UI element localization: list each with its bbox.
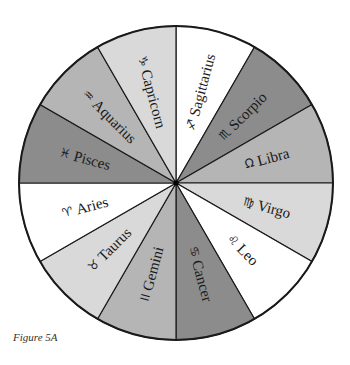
center-dot xyxy=(174,181,179,186)
figure-caption: Figure 5A xyxy=(13,331,58,343)
zodiac-wheel: ♐ Sagittarius♏ ScorpioΩ Libra♍ Virgo♌ Le… xyxy=(0,0,350,365)
